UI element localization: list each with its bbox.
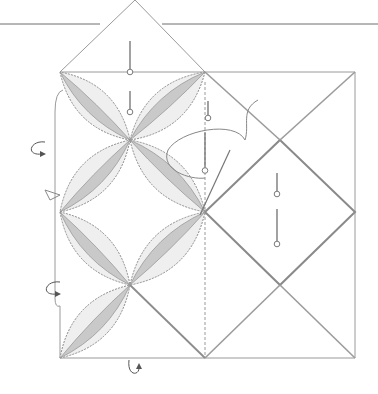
thread-tail xyxy=(245,100,258,140)
arrowhead-icon xyxy=(55,291,61,297)
petal-window xyxy=(130,212,205,285)
fold-arrow-icon xyxy=(46,282,60,294)
pin-icon xyxy=(205,101,211,121)
fabric-corner-tab xyxy=(45,190,60,200)
fold-line xyxy=(205,285,280,358)
arrowhead-icon xyxy=(40,151,46,157)
petal-window-shapes xyxy=(60,72,205,358)
top-diamond xyxy=(60,0,205,72)
pin-icon xyxy=(274,209,280,247)
left-edge xyxy=(55,90,63,358)
pin-icon xyxy=(274,173,280,197)
quilt-diagram xyxy=(0,0,378,394)
fold-line xyxy=(280,72,355,140)
fold-line xyxy=(130,285,205,358)
fold-line xyxy=(280,285,355,358)
fold-arrow-icon xyxy=(31,142,45,154)
petal-window xyxy=(60,285,130,358)
petal-window xyxy=(130,72,205,140)
right-diamond xyxy=(205,140,355,285)
pin-icon xyxy=(127,91,133,115)
pin-icon xyxy=(202,133,208,174)
fold-line xyxy=(205,72,280,140)
arrowhead-icon xyxy=(136,363,142,369)
petal-window xyxy=(60,212,130,285)
petal-window xyxy=(60,72,130,140)
petal-window xyxy=(60,140,130,212)
